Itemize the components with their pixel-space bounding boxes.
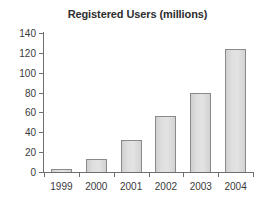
y-axis-tick-label: 40 <box>25 127 36 138</box>
x-axis-tick <box>79 172 80 177</box>
y-axis-tick <box>39 152 44 153</box>
x-axis-label-2001: 2001 <box>120 181 142 192</box>
x-axis-label-1999: 1999 <box>50 181 72 192</box>
y-axis-tick-label: 60 <box>25 107 36 118</box>
x-axis-label-2003: 2003 <box>190 181 212 192</box>
y-axis-tick <box>39 132 44 133</box>
bar-2000 <box>86 159 107 172</box>
bar-2004 <box>225 49 246 172</box>
x-axis-label-2004: 2004 <box>224 181 246 192</box>
bar-2001 <box>121 140 142 172</box>
y-axis-tick <box>39 73 44 74</box>
x-axis-tick <box>114 172 115 177</box>
x-axis-tick <box>253 172 254 177</box>
y-axis-tick-label: 100 <box>19 67 36 78</box>
y-axis-tick-label: 140 <box>19 28 36 39</box>
bar-1999 <box>51 169 72 172</box>
y-axis-tick-label: 20 <box>25 147 36 158</box>
y-axis-tick-label: 80 <box>25 87 36 98</box>
y-axis-tick <box>39 93 44 94</box>
bar-2003 <box>190 93 211 172</box>
y-axis-tick-label: 0 <box>30 167 36 178</box>
x-axis-tick <box>44 172 45 177</box>
y-axis-tick <box>39 53 44 54</box>
y-axis-tick <box>39 112 44 113</box>
bar-2002 <box>155 116 176 172</box>
y-axis-tick-label: 120 <box>19 47 36 58</box>
x-axis-tick <box>218 172 219 177</box>
plot-area: 0204060801001201401999200020012002200320… <box>44 33 253 172</box>
x-axis-tick <box>149 172 150 177</box>
x-axis-label-2000: 2000 <box>85 181 107 192</box>
chart-title: Registered Users (millions) <box>0 8 275 20</box>
bar-chart: Registered Users (millions) 020406080100… <box>0 0 275 203</box>
x-axis-tick <box>183 172 184 177</box>
y-axis-tick <box>39 33 44 34</box>
x-axis-label-2002: 2002 <box>155 181 177 192</box>
